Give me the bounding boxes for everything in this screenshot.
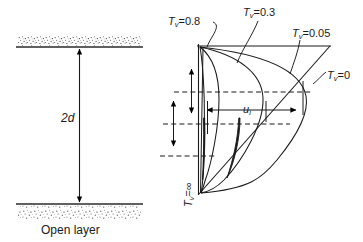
label-tv-0-value: =0 <box>337 69 350 81</box>
isochrone-tv-03 <box>200 47 263 193</box>
permeable-sand-top <box>18 35 141 46</box>
label-tv-005-sub: v <box>299 32 303 41</box>
open-layer-caption: Open layer <box>41 224 100 236</box>
label-tv-08: Tv=0.8 <box>168 16 200 27</box>
label-tv-inf-sub: v <box>187 197 196 201</box>
label-tv-03-value: =0.3 <box>253 6 275 18</box>
label-tv-03: Tv=0.3 <box>243 7 275 18</box>
label-ui-sub: i <box>249 108 251 117</box>
label-tv-03-symbol: T <box>243 6 250 18</box>
isochrone-tv-005 <box>200 47 307 193</box>
label-tv-0: Tv=0 <box>327 70 350 81</box>
label-tv-005-symbol: T <box>292 27 299 39</box>
label-tv-inf: Tv=∞ <box>183 182 194 207</box>
label-tv-03-sub: v <box>250 11 254 20</box>
leader-tv-0 <box>313 72 326 84</box>
label-tv-08-symbol: T <box>168 15 175 27</box>
label-tv-inf-symbol: T <box>182 200 194 207</box>
label-ui: ui <box>243 104 251 115</box>
label-tv-inf-value: =∞ <box>182 182 194 196</box>
thickness-label: 2d <box>61 112 74 124</box>
figure-root: 2d Open layer Tv=0.8 Tv=0.3 Tv=0.05 Tv=0… <box>0 0 363 242</box>
label-tv-08-value: =0.8 <box>178 15 200 27</box>
label-tv-08-sub: v <box>175 20 179 29</box>
label-tv-005-value: =0.05 <box>302 27 330 39</box>
label-tv-005: Tv=0.05 <box>292 28 330 39</box>
leader-tv-005 <box>290 40 300 74</box>
label-tv-0-symbol: T <box>327 69 334 81</box>
sliver-left-shade <box>203 118 205 180</box>
isochrone-tv-0 <box>199 46 330 194</box>
left-section-group <box>16 35 143 221</box>
label-tv-0-sub: v <box>334 74 338 83</box>
permeable-sand-bottom <box>18 205 141 221</box>
leader-tv-08 <box>207 22 216 47</box>
